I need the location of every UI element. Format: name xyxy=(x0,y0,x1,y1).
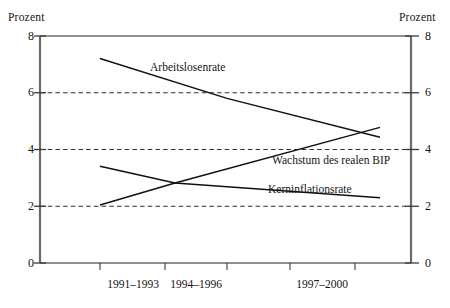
y-tick-label-left-2: 2 xyxy=(14,200,34,212)
chart-container: Prozent Prozent xyxy=(0,0,450,308)
x-tick-label-1997-2000: 1997–2000 xyxy=(277,279,367,291)
series-label-wachstum-des-realen-bip: Wachstum des realen BIP xyxy=(272,155,390,167)
series-line-arbeitslosenrate xyxy=(100,59,380,138)
y-tick-label-right-2: 2 xyxy=(425,200,445,212)
y-tick-label-left-8: 8 xyxy=(14,30,34,42)
y-tick-label-left-0: 0 xyxy=(14,257,34,269)
gridline-group xyxy=(40,93,411,207)
series-label-arbeitslosenrate: Arbeitslosenrate xyxy=(150,62,225,74)
y-tick-label-right-4: 4 xyxy=(425,143,445,155)
y-tick-label-right-6: 6 xyxy=(425,86,445,98)
y-tick-label-left-6: 6 xyxy=(14,86,34,98)
y-tick-label-right-8: 8 xyxy=(425,30,445,42)
y-tick-label-right-0: 0 xyxy=(425,257,445,269)
x-tick-label-1994-1996: 1994–1996 xyxy=(151,279,241,291)
x-tick-marks xyxy=(100,263,355,270)
series-label-kerninflationsrate: Kerninflationsrate xyxy=(268,184,352,196)
y-tick-label-left-4: 4 xyxy=(14,143,34,155)
